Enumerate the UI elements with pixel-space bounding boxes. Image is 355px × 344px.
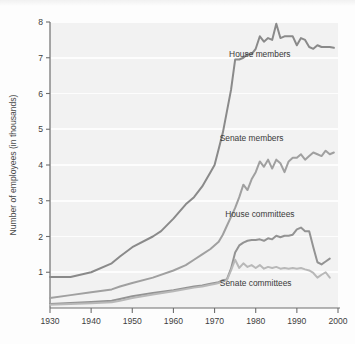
x-tick-label: 1940 [82,316,101,326]
y-axis-title: Number of employees (in thousands) [8,94,18,235]
scan-artifact-band [0,0,355,6]
y-tick-label: 5 [38,124,43,134]
x-tick-label: 1930 [40,316,59,326]
series-label-senate-members: Senate members [220,133,284,143]
chart-figure: 12345678 1930194019501960197019801990200… [0,0,355,344]
y-axis-tick-labels: 12345678 [38,17,43,277]
x-tick-label: 1990 [287,316,306,326]
y-tick-label: 1 [38,267,43,277]
x-tick-label: 1950 [123,316,142,326]
x-tick-label: 2000 [328,316,347,326]
series-label-house-members: House members [229,49,290,59]
y-tick-label: 8 [38,17,43,27]
y-tick-label: 2 [38,232,43,242]
x-axis-tick-labels: 19301940195019601970198019902000 [40,316,347,326]
series-label-senate-committees: Senate committees [220,278,292,288]
x-axis-ticks [50,308,338,313]
x-tick-label: 1980 [246,316,265,326]
y-tick-label: 6 [38,89,43,99]
y-tick-label: 3 [38,196,43,206]
y-tick-label: 7 [38,53,43,63]
x-tick-label: 1970 [205,316,224,326]
series-label-house-committees: House committees [225,209,294,219]
x-tick-label: 1960 [164,316,183,326]
y-tick-label: 4 [38,160,43,170]
line-chart: 12345678 1930194019501960197019801990200… [0,0,355,344]
